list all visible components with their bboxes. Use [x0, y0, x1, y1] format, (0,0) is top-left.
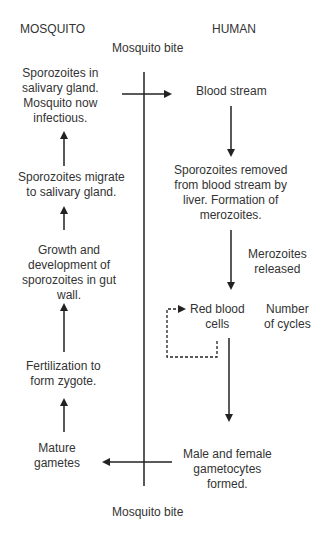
stage-line: merozoites. — [174, 208, 287, 223]
mosquito-stage-migrate: Sporozoites migrate to salivary gland. — [18, 170, 125, 200]
annotation-line: Merozoites — [248, 247, 307, 262]
mosquito-stage-growth: Growth and development of sporozoites in… — [22, 243, 116, 303]
mosquito-stage-salivary: Sporozoites in salivary gland. Mosquito … — [22, 66, 99, 126]
stage-line: gametes — [34, 456, 80, 471]
stage-line: Growth and — [22, 243, 116, 258]
mosquito-stage-fertilization: Fertilization to form zygote. — [26, 359, 101, 389]
stage-line: form zygote. — [26, 374, 101, 389]
stage-line: from blood stream by — [174, 178, 287, 193]
mosquito-stage-mature-gametes: Mature gametes — [34, 441, 80, 471]
stage-line: salivary gland. — [22, 81, 99, 96]
stage-line: infectious. — [22, 111, 99, 126]
bite-label-top: Mosquito bite — [112, 41, 183, 56]
human-stage-blood-stream: Blood stream — [196, 84, 267, 99]
stage-line: formed. — [183, 477, 272, 492]
stage-line: to salivary gland. — [18, 185, 125, 200]
stage-line: Sporozoites in — [22, 66, 99, 81]
annotation-line: Number — [264, 302, 311, 317]
header-human: HUMAN — [212, 22, 256, 37]
stage-line: liver. Formation of — [174, 193, 287, 208]
stage-line: Fertilization to — [26, 359, 101, 374]
human-stage-gametocytes: Male and female gametocytes formed. — [183, 447, 272, 492]
stage-line: Sporozoites removed — [174, 163, 287, 178]
stage-line: Mature — [34, 441, 80, 456]
human-stage-liver: Sporozoites removed from blood stream by… — [174, 163, 287, 223]
stage-line: Sporozoites migrate — [18, 170, 125, 185]
stage-line: Blood stream — [196, 84, 267, 99]
bite-label-bottom: Mosquito bite — [112, 505, 183, 520]
stage-line: cells — [190, 317, 245, 332]
annotation-line: of cycles — [264, 317, 311, 332]
stage-line: Male and female — [183, 447, 272, 462]
stage-line: wall. — [22, 288, 116, 303]
stage-line: sporozoites in gut — [22, 273, 116, 288]
header-mosquito: MOSQUITO — [20, 22, 85, 37]
stage-line: Red blood — [190, 302, 245, 317]
stage-line: gametocytes — [183, 462, 272, 477]
stage-line: Mosquito now — [22, 96, 99, 111]
annotation-line: released — [248, 262, 307, 277]
stage-line: development of — [22, 258, 116, 273]
annotation-number-of-cycles: Number of cycles — [264, 302, 311, 332]
annotation-merozoites-released: Merozoites released — [248, 247, 307, 277]
human-stage-red-blood-cells: Red blood cells — [190, 302, 245, 332]
